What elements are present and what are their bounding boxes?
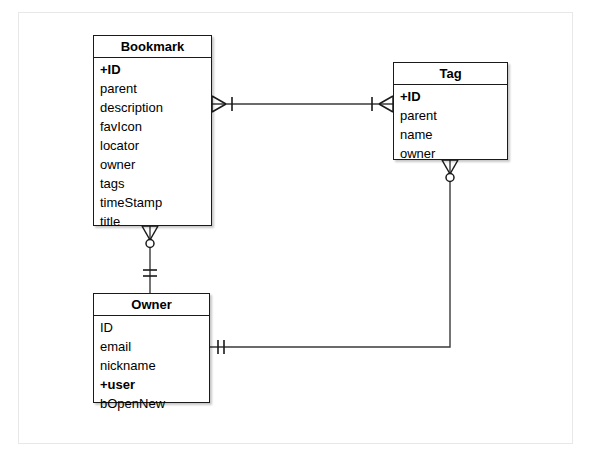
entity-bookmark-field-timestamp: timeStamp [94, 193, 211, 212]
entity-tag-field-id: +ID [394, 87, 507, 106]
entity-bookmark-field-title: title [94, 212, 211, 231]
connector-bookmark-tag [212, 96, 393, 112]
entity-tag-field-parent: parent [394, 106, 507, 125]
entity-owner-field-nickname: nickname [94, 356, 209, 375]
entity-bookmark-field-list: +ID parent description favIcon locator o… [94, 58, 211, 233]
entity-bookmark-field-owner: owner [94, 155, 211, 174]
entity-tag-field-owner: owner [394, 144, 507, 163]
entity-owner-field-email: email [94, 337, 209, 356]
entity-tag[interactable]: Tag +ID parent name owner [393, 62, 508, 160]
entity-owner[interactable]: Owner ID email nickname +user bOpenNew [93, 293, 210, 403]
entity-bookmark-field-description: description [94, 98, 211, 117]
entity-tag-field-name: name [394, 125, 507, 144]
entity-bookmark-field-id: +ID [94, 60, 211, 79]
entity-bookmark-field-tags: tags [94, 174, 211, 193]
circle-zero-bookmark-owner [146, 240, 154, 248]
er-diagram-screenshot: Bookmark +ID parent description favIcon … [0, 0, 593, 461]
entity-bookmark[interactable]: Bookmark +ID parent description favIcon … [93, 35, 212, 226]
connector-bookmark-owner [142, 226, 158, 293]
entity-owner-field-list: ID email nickname +user bOpenNew [94, 316, 209, 415]
entity-owner-field-bopennew: bOpenNew [94, 394, 209, 413]
connector-tag-owner [210, 160, 458, 354]
entity-tag-title: Tag [394, 63, 507, 85]
entity-owner-field-user: +user [94, 375, 209, 394]
entity-owner-title: Owner [94, 294, 209, 316]
connector-line-tag-owner [210, 160, 450, 347]
entity-owner-field-id: ID [94, 318, 209, 337]
entity-bookmark-title: Bookmark [94, 36, 211, 58]
entity-bookmark-field-locator: locator [94, 136, 211, 155]
entity-bookmark-field-parent: parent [94, 79, 211, 98]
entity-bookmark-field-favicon: favIcon [94, 117, 211, 136]
entity-tag-field-list: +ID parent name owner [394, 85, 507, 165]
circle-zero-tag-owner [446, 174, 454, 182]
